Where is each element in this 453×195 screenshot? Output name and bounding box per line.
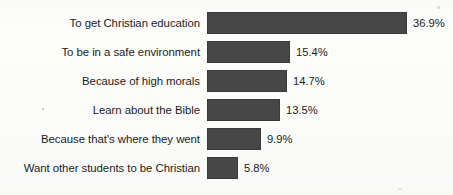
bar bbox=[207, 128, 261, 150]
bar-row: Want other students to be Christian5.8% bbox=[0, 157, 453, 179]
category-label: Learn about the Bible bbox=[93, 99, 200, 121]
bar-value-label: 15.4% bbox=[296, 41, 328, 63]
bar-value-label: 13.5% bbox=[286, 99, 318, 121]
bar-row: To get Christian education36.9% bbox=[0, 12, 453, 34]
bar-value-label: 14.7% bbox=[293, 70, 325, 92]
bar-row: Because that's where they went9.9% bbox=[0, 128, 453, 150]
category-label: Because that's where they went bbox=[41, 128, 200, 150]
bar-value-label: 9.9% bbox=[267, 128, 293, 150]
scan-speck bbox=[437, 6, 440, 9]
scan-speck bbox=[398, 188, 402, 190]
bar-value-label: 5.8% bbox=[244, 157, 270, 179]
bar-row: To be in a safe environment15.4% bbox=[0, 41, 453, 63]
bar bbox=[207, 12, 407, 34]
bar-rows-container: To get Christian education36.9%To be in … bbox=[0, 0, 453, 195]
bar bbox=[207, 99, 280, 121]
bar-row: Learn about the Bible13.5% bbox=[0, 99, 453, 121]
bar bbox=[207, 70, 287, 92]
bar-chart: To get Christian education36.9%To be in … bbox=[0, 0, 453, 195]
bar-value-label: 36.9% bbox=[413, 12, 445, 34]
scan-speck bbox=[42, 108, 44, 110]
category-label: To be in a safe environment bbox=[61, 41, 200, 63]
bar bbox=[207, 41, 290, 63]
category-label: Want other students to be Christian bbox=[24, 157, 200, 179]
category-label: To get Christian education bbox=[70, 12, 200, 34]
bar bbox=[207, 157, 238, 179]
bar-row: Because of high morals14.7% bbox=[0, 70, 453, 92]
category-label: Because of high morals bbox=[82, 70, 200, 92]
